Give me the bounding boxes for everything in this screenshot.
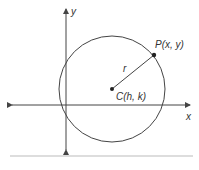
center-point [110, 87, 114, 91]
radius-line [112, 55, 154, 89]
point-p [152, 53, 156, 57]
y-axis-label: y [70, 6, 77, 17]
x-axis-label: x [185, 111, 192, 122]
circle-diagram: y x P(x, y) C(h, k) r [0, 0, 199, 170]
point-label: P(x, y) [155, 39, 184, 50]
radius-label: r [123, 63, 127, 74]
center-label: C(h, k) [116, 91, 146, 102]
